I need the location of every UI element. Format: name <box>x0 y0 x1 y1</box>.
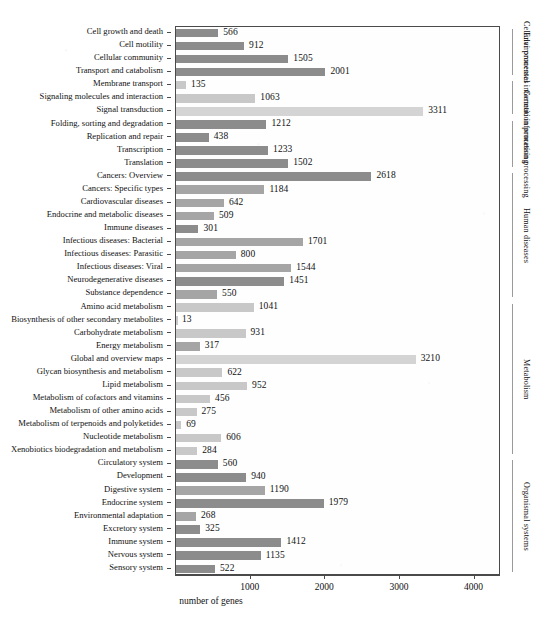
bar <box>176 538 281 547</box>
category-tick <box>167 162 171 163</box>
category-tick <box>167 254 171 255</box>
category-tick <box>167 267 171 268</box>
bar-value-label: 1502 <box>293 156 312 168</box>
bar <box>176 29 218 38</box>
category-tick <box>167 280 171 281</box>
bar-value-label: 135 <box>191 78 206 90</box>
bar <box>176 120 266 129</box>
bar <box>176 565 215 574</box>
bar-value-label: 1701 <box>308 235 327 247</box>
group-block: Organismal systems <box>503 457 550 575</box>
bar-value-label: 3210 <box>421 352 440 364</box>
bar <box>176 277 284 286</box>
category-label: Metabolism of cofactors and vitamins <box>33 392 163 403</box>
category-tick <box>167 241 171 242</box>
bar-value-label: 13 <box>182 313 192 325</box>
category-tick <box>167 45 171 46</box>
category-tick <box>167 319 171 320</box>
group-block: Human diseases <box>503 170 550 301</box>
category-label: Signaling molecules and interaction <box>40 91 163 102</box>
category-tick <box>167 306 171 307</box>
bar <box>176 264 291 273</box>
bar-value-label: 1063 <box>260 91 279 103</box>
category-tick <box>167 437 171 438</box>
category-label: Transcription <box>117 144 163 155</box>
bar <box>176 551 261 560</box>
bar-value-label: 438 <box>214 130 229 142</box>
category-tick <box>167 424 171 425</box>
bar-value-label: 1233 <box>273 143 292 155</box>
category-tick <box>167 97 171 98</box>
category-label: Sensory system <box>109 562 163 573</box>
bar-value-label: 456 <box>215 392 230 404</box>
group-axis-labels: Cellular processesEnvironmental informat… <box>503 0 550 628</box>
bar-value-label: 566 <box>223 26 238 38</box>
category-tick <box>167 215 171 216</box>
category-label: Endocrine and metabolic diseases <box>47 209 163 220</box>
category-tick <box>167 515 171 516</box>
category-label: Immune diseases <box>104 222 163 233</box>
category-tick <box>167 450 171 451</box>
category-label: Cellular community <box>94 52 163 63</box>
bar-value-label: 1190 <box>270 483 289 495</box>
bar-value-label: 1544 <box>296 261 315 273</box>
bar-value-label: 931 <box>251 326 266 338</box>
bar-value-label: 642 <box>229 196 244 208</box>
bar <box>176 42 244 51</box>
category-tick <box>167 345 171 346</box>
bar-value-label: 3311 <box>428 104 447 116</box>
bar <box>176 172 371 181</box>
bar-value-label: 2001 <box>330 65 349 77</box>
category-label: Environmental adaptation <box>74 510 163 521</box>
bar-value-label: 800 <box>241 248 256 260</box>
bar <box>176 316 178 325</box>
bar <box>176 512 196 521</box>
bar-value-label: 1135 <box>266 549 285 561</box>
x-tick <box>474 575 475 579</box>
category-label: Translation <box>124 157 163 168</box>
bar <box>176 499 324 508</box>
bar <box>176 107 423 116</box>
bar <box>176 486 265 495</box>
bar-value-label: 940 <box>251 470 266 482</box>
category-label: Infectious diseases: Viral <box>77 261 163 272</box>
category-label: Glycan biosynthesis and metabolism <box>37 366 163 377</box>
bar <box>176 368 222 377</box>
bar <box>176 460 218 469</box>
category-label: Nervous system <box>108 549 163 560</box>
bar <box>176 395 210 404</box>
category-tick <box>167 541 171 542</box>
category-tick <box>167 411 171 412</box>
category-label: Endocrine system <box>102 497 163 508</box>
x-axis-title: number of genes <box>0 596 550 606</box>
bar-value-label: 325 <box>205 522 220 534</box>
bar <box>176 329 246 338</box>
bar-value-label: 522 <box>220 562 235 574</box>
bar <box>176 251 236 260</box>
bar <box>176 238 303 247</box>
category-tick <box>167 123 171 124</box>
category-tick <box>167 358 171 359</box>
x-tick <box>250 575 251 579</box>
bar <box>176 133 209 142</box>
category-label: Cancers: Overview <box>97 170 163 181</box>
category-label: Nucleotide metabolism <box>83 431 163 442</box>
group-label: Human diseases <box>522 208 531 263</box>
category-label: Circulatory system <box>98 457 163 468</box>
x-tick-label: 4000 <box>464 581 483 593</box>
category-tick <box>167 136 171 137</box>
category-label: Substance dependence <box>85 287 163 298</box>
bar-value-label: 550 <box>222 287 237 299</box>
bar <box>176 94 255 103</box>
group-label: Metabolism <box>522 359 531 400</box>
category-label: Cell growth and death <box>87 26 163 37</box>
bar-value-label: 268 <box>201 509 216 521</box>
bar-value-label: 301 <box>203 222 218 234</box>
category-label: Membrane transport <box>93 78 163 89</box>
bar <box>176 525 200 534</box>
category-tick <box>167 228 171 229</box>
category-tick <box>167 371 171 372</box>
category-label: Xenobiotics biodegradation and metabolis… <box>11 444 163 455</box>
bar <box>176 342 200 351</box>
category-label: Infectious diseases: Parasitic <box>64 248 163 259</box>
